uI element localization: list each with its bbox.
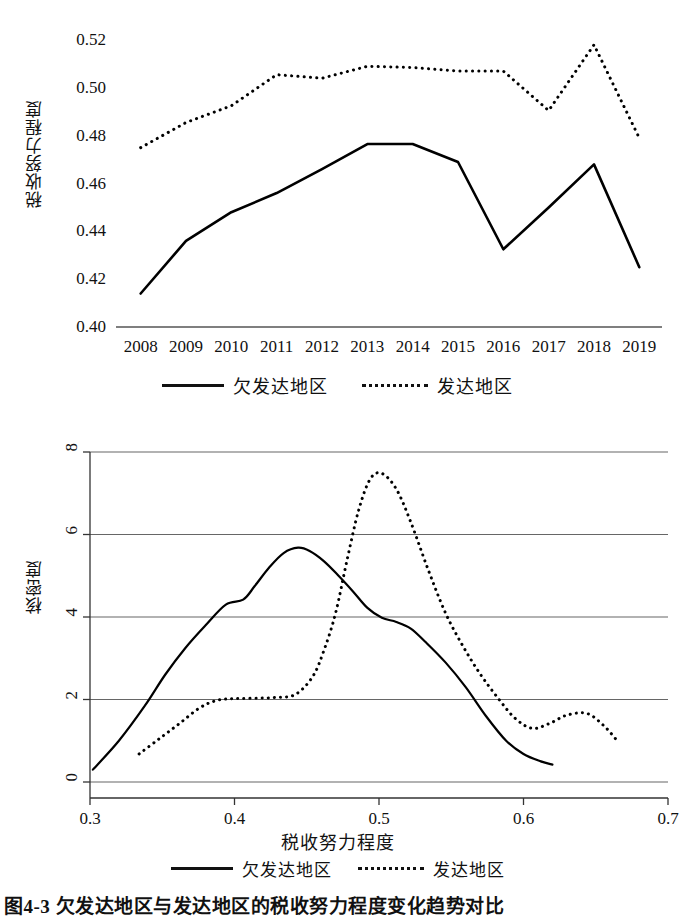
y-axis-title-top: 税收努力程度	[22, 100, 47, 208]
y-tick-label: 0	[62, 773, 82, 782]
x-tick-label: 2014	[390, 338, 436, 355]
x-tick-label: 0.4	[205, 810, 265, 827]
x-tick-label: 2016	[480, 338, 526, 355]
legend-top: 欠发达地区发达地区	[0, 372, 675, 398]
x-tick-label: 2010	[208, 338, 254, 355]
x-tick-label: 2013	[344, 338, 390, 355]
x-tick-label: 0.5	[349, 810, 409, 827]
series-line-underdeveloped	[93, 548, 553, 770]
y-tick-label: 0.46	[44, 175, 106, 192]
x-tick-label: 0.7	[638, 810, 683, 827]
legend-label: 发达地区	[437, 372, 513, 398]
legend-swatch-dashed-icon	[362, 384, 428, 387]
x-tick-label: 2018	[571, 338, 617, 355]
x-tick-label: 0.3	[60, 810, 120, 827]
legend-swatch-solid-icon	[162, 384, 224, 387]
legend-item-underdeveloped: 欠发达地区	[162, 372, 328, 398]
legend-swatch-dashed-icon	[358, 867, 424, 870]
legend-item-developed: 发达地区	[362, 372, 513, 398]
legend-label: 发达地区	[433, 856, 505, 881]
x-tick-label: 2011	[254, 338, 300, 355]
y-tick-label: 8	[62, 443, 82, 452]
series-line-developed	[139, 473, 619, 754]
x-tick-label: 2019	[616, 338, 662, 355]
y-tick-label: 0.42	[44, 270, 106, 287]
legend-swatch-solid-icon	[171, 867, 233, 870]
y-tick-label: 0.52	[44, 31, 106, 48]
y-tick-label: 0.44	[44, 222, 106, 239]
x-tick-label: 0.6	[494, 810, 554, 827]
x-tick-label: 2017	[526, 338, 572, 355]
y-tick-label: 0.48	[44, 127, 106, 144]
y-axis-title-bottom: 核密度	[22, 560, 47, 614]
figure-caption: 图4-3 欠发达地区与发达地区的税收努力程度变化趋势对比	[0, 891, 679, 918]
x-tick-label: 2009	[163, 338, 209, 355]
legend-bottom: 欠发达地区发达地区	[0, 856, 675, 881]
x-axis-title-bottom: 税收努力程度	[0, 828, 675, 854]
legend-label: 欠发达地区	[233, 372, 328, 398]
kernel-density-chart: 核密度 02468 0.30.40.50.60.7 税收努力程度 欠发达地区发达…	[0, 430, 675, 914]
legend-item-underdeveloped: 欠发达地区	[171, 856, 332, 881]
tax-effort-trend-plot	[0, 0, 675, 340]
y-tick-label: 6	[62, 526, 82, 535]
tax-effort-trend-chart: 税收努力程度 0.400.420.440.460.480.500.52 2008…	[0, 0, 675, 400]
series-line-underdeveloped	[141, 144, 640, 293]
legend-label: 欠发达地区	[242, 856, 332, 881]
x-tick-label: 2008	[118, 338, 164, 355]
series-line-developed	[141, 45, 640, 148]
kernel-density-plot	[0, 430, 675, 805]
legend-item-developed: 发达地区	[358, 856, 505, 881]
y-tick-label: 0.40	[44, 318, 106, 335]
x-tick-label: 2015	[435, 338, 481, 355]
x-tick-label: 2012	[299, 338, 345, 355]
y-tick-label: 0.50	[44, 79, 106, 96]
y-tick-label: 2	[62, 691, 82, 700]
y-tick-label: 4	[62, 608, 82, 617]
